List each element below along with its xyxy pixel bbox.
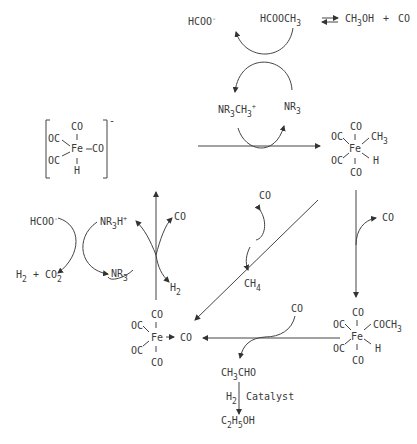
fe5-oc-lower: OC	[131, 346, 143, 356]
ch4-label: CH4	[244, 279, 261, 294]
left-amine-label: NR3	[111, 269, 128, 284]
left-formate-label: HCOO-	[30, 214, 58, 227]
fe5-fe: Fe	[151, 333, 163, 343]
anion-fe: Fe	[71, 144, 83, 154]
ethanol-label: C2H5OH	[221, 416, 255, 431]
methyl-co-bottom: CO	[350, 168, 362, 178]
catalyst-label: Catalyst	[246, 392, 294, 402]
methyl-oc-upper: OC	[331, 132, 343, 142]
acyl-co-bottom: CO	[352, 356, 364, 366]
methane-elimination-arrow	[195, 200, 318, 320]
acyl-coch3: COCH3	[373, 320, 402, 335]
acyl-oc-upper: OC	[333, 320, 345, 330]
co-in-bottom-label: CO	[291, 304, 303, 314]
ammonium-label: NR3H+	[100, 214, 127, 232]
reaction-arrows	[0, 0, 417, 444]
co-in-methane-label: CO	[259, 191, 271, 201]
formate-release-arc	[236, 28, 293, 54]
anion-h: H	[74, 166, 80, 176]
methylammonium-label: NR3CH3+	[218, 102, 256, 120]
methyl-co-top: CO	[350, 122, 362, 132]
anion-co-top: CO	[71, 122, 83, 132]
fe5-co-bottom: CO	[151, 358, 163, 368]
ammonium-in-arc	[136, 221, 156, 255]
anion-oc-upper: OC	[48, 134, 60, 144]
co-in-right-label: CO	[382, 213, 394, 223]
formate-label: HCOO-	[188, 14, 216, 27]
amine-cycle-upper-arc	[235, 62, 292, 92]
h2-reagent-label: H2	[226, 392, 237, 407]
acyl-h: H	[375, 344, 381, 354]
co-product-label: CO	[398, 14, 410, 24]
co-out-arc	[156, 218, 172, 255]
methanol-label: CH3OH	[345, 14, 374, 29]
acyl-co-top: CO	[352, 308, 364, 318]
bracket-left	[46, 120, 50, 178]
co-out-label: CO	[174, 212, 186, 222]
acetaldehyde-out-arc	[240, 316, 295, 358]
h2-out-label: H2	[170, 283, 181, 298]
amine-cycle-lower-arc	[238, 126, 284, 148]
plus-sign: +	[383, 14, 389, 24]
fe5-co-top: CO	[151, 310, 163, 320]
anion-oc-lower: OC	[48, 156, 60, 166]
methyl-formate-label: HCOOCH3	[260, 14, 301, 29]
amine-label-top: NR3	[284, 102, 301, 117]
co-in-right-arc	[356, 218, 376, 245]
co-in-methane-arc	[256, 210, 265, 240]
fe5-oc-upper: OC	[131, 321, 143, 331]
methyl-h: H	[373, 156, 379, 166]
h2-co2-label: H2 + CO2	[16, 270, 62, 285]
fe5-co-right: CO	[180, 333, 192, 343]
methyl-fe: Fe	[349, 144, 361, 154]
acetaldehyde-label: CH3CHO	[221, 368, 256, 383]
methyl-oc-lower: OC	[331, 156, 343, 166]
anion-charge: -	[109, 116, 115, 126]
acyl-oc-lower: OC	[333, 344, 345, 354]
anion-co-right: CO	[92, 144, 104, 154]
h2-out-arc	[156, 255, 169, 282]
methyl-ch3: CH3	[371, 132, 388, 147]
formate-decomp-arc	[58, 218, 76, 273]
acyl-fe: Fe	[351, 332, 363, 342]
